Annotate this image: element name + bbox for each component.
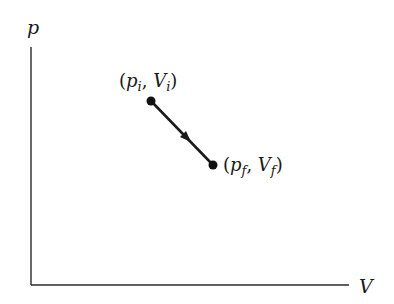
initial-point-label: (pi, Vi) [119, 70, 177, 94]
process-line [151, 101, 213, 165]
initial-point [147, 97, 156, 106]
final-point-label: (pf, Vf) [223, 154, 283, 178]
pv-diagram: p V (pi, Vi) (pf, Vf) [0, 0, 394, 304]
y-axis-label: p [27, 16, 39, 38]
final-point [209, 161, 218, 170]
x-axis-label: V [359, 275, 375, 297]
